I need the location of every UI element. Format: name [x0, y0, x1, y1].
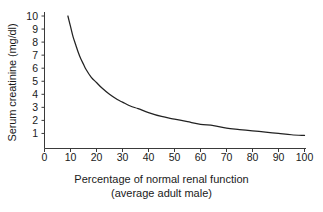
x-tick-label: 10 [65, 152, 77, 163]
data-curve [68, 16, 305, 135]
y-tick-label: 6 [24, 63, 38, 74]
y-tick-label: 4 [24, 89, 38, 100]
x-tick-label: 50 [169, 152, 181, 163]
y-tick-label: 7 [24, 50, 38, 61]
x-tick-label: 0 [42, 152, 48, 163]
y-tick-label: 8 [24, 37, 38, 48]
x-tick-label: 70 [221, 152, 233, 163]
y-tick-label: 9 [24, 24, 38, 35]
y-tick-label: 10 [24, 11, 38, 22]
x-axis-title: Percentage of normal renal function (ave… [0, 172, 323, 200]
x-tick-label: 30 [117, 152, 129, 163]
x-tick-label: 60 [195, 152, 207, 163]
x-tick-label: 80 [247, 152, 259, 163]
y-tick-label: 5 [24, 76, 38, 87]
y-tick-label: 3 [24, 102, 38, 113]
x-tick-label: 100 [296, 152, 314, 163]
y-tick-label: 2 [24, 115, 38, 126]
x-tick-label: 90 [273, 152, 285, 163]
chart-figure: Serum creatinine (mg/dl) 12345678910 010… [0, 0, 323, 212]
x-tick-label: 40 [143, 152, 155, 163]
x-axis-title-line1: Percentage of normal renal function [74, 173, 248, 185]
y-tick-label: 1 [24, 128, 38, 139]
x-tick-label: 20 [91, 152, 103, 163]
x-axis-title-line2: (average adult male) [0, 186, 323, 200]
